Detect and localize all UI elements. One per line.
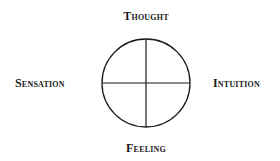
label-feeling: Feeling — [126, 142, 166, 154]
label-sensation: Sensation — [15, 77, 65, 89]
jung-function-diagram: Thought Sensation Intuition Feeling — [0, 0, 280, 161]
label-intuition: Intuition — [213, 77, 260, 89]
label-thought: Thought — [123, 10, 168, 22]
